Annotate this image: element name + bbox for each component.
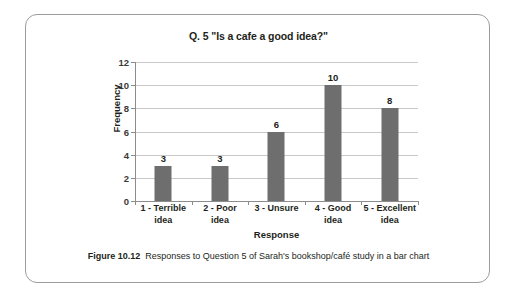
y-tick-label-6: 6	[124, 126, 129, 137]
bar-value-label: 8	[387, 95, 392, 106]
y-tick-mark-8	[131, 108, 135, 109]
figure-panel: Q. 5 "Is a cafe a good idea?" Frequency …	[25, 14, 490, 283]
x-category-label: 5 - Excellentidea	[355, 203, 424, 226]
y-tick-label-12: 12	[118, 57, 129, 68]
chart-title: Q. 5 "Is a cafe a good idea?"	[26, 30, 491, 42]
bar-group[interactable]: 3	[135, 62, 192, 201]
bar-rect[interactable]	[381, 108, 398, 201]
y-tick-label-2: 2	[124, 172, 129, 183]
bar-value-label: 10	[328, 72, 339, 83]
bars-layer: 336108	[135, 62, 418, 201]
y-axis-title: Frequency	[111, 84, 122, 132]
y-tick-mark-2	[131, 178, 135, 179]
y-tick-mark-12	[131, 62, 135, 63]
x-axis-title: Response	[135, 229, 418, 240]
plot-area: 336108 024681012	[135, 62, 418, 201]
figure-caption: Figure 10.12 Responses to Question 5 of …	[26, 251, 491, 261]
bar-group[interactable]: 3	[192, 62, 249, 201]
y-tick-mark-10	[131, 85, 135, 86]
x-category-label-line: idea	[355, 215, 424, 227]
bar-group[interactable]: 8	[361, 62, 418, 201]
x-category-label-line: 5 - Excellent	[355, 203, 424, 215]
y-tick-mark-4	[131, 155, 135, 156]
x-category-label-line: idea	[186, 215, 255, 227]
bar-rect[interactable]	[268, 132, 285, 202]
bar-rect[interactable]	[211, 166, 228, 201]
bar-group[interactable]: 10	[305, 62, 362, 201]
bar-value-label: 3	[161, 153, 166, 164]
figure-caption-number: Figure 10.12	[88, 251, 141, 261]
bar-rect[interactable]	[155, 166, 172, 201]
y-tick-label-10: 10	[118, 80, 129, 91]
bar-group[interactable]: 6	[248, 62, 305, 201]
y-tick-mark-6	[131, 132, 135, 133]
figure-caption-text: Responses to Question 5 of Sarah's books…	[145, 251, 429, 261]
y-tick-label-4: 4	[124, 149, 129, 160]
bar-value-label: 6	[274, 119, 279, 130]
y-tick-label-8: 8	[124, 103, 129, 114]
bar-rect[interactable]	[325, 85, 342, 201]
gridline-0	[135, 201, 418, 202]
bar-value-label: 3	[217, 153, 222, 164]
